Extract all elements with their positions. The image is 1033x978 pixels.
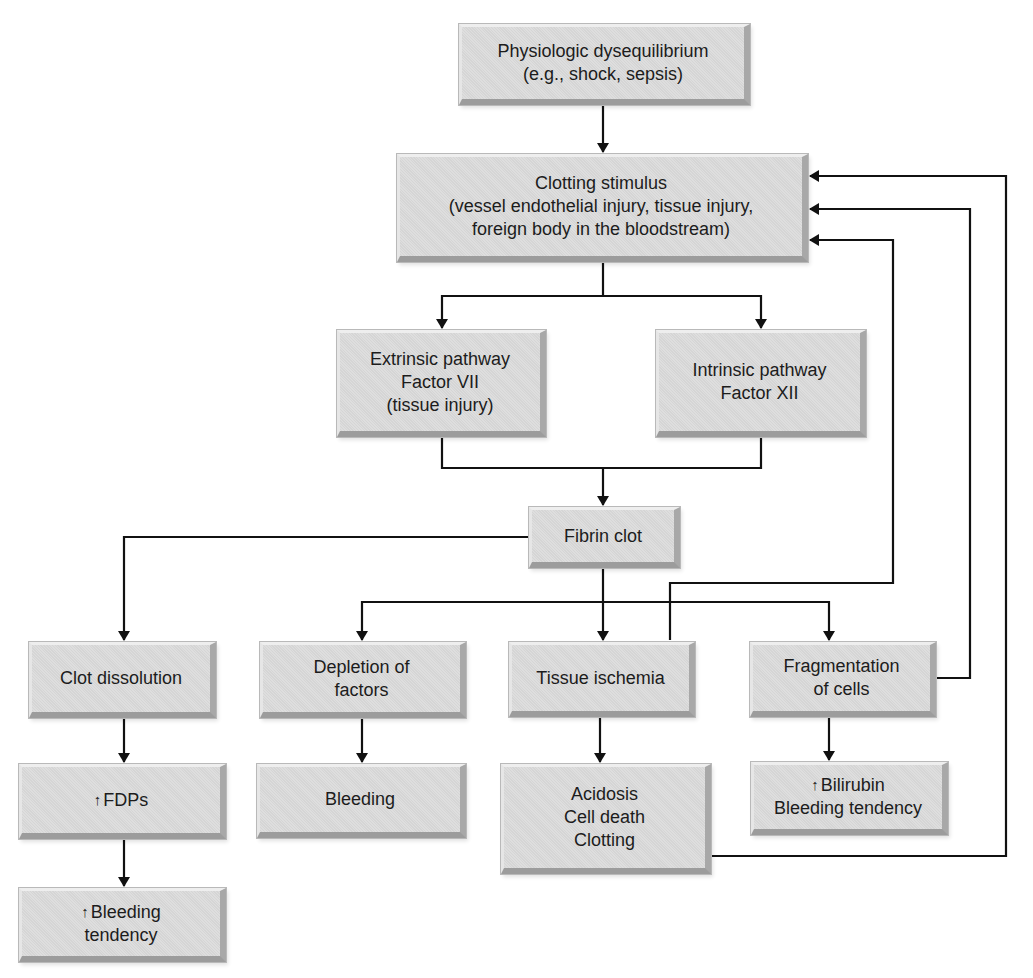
node-text-line: factors xyxy=(334,679,388,702)
node-intrinsic-pathway: Intrinsic pathway Factor XII xyxy=(656,330,866,437)
node-bleeding: Bleeding xyxy=(257,764,466,838)
node-text-line: Intrinsic pathway xyxy=(692,359,826,382)
node-bilirubin-bleeding-tendency: ↑Bilirubin Bleeding tendency xyxy=(751,762,948,835)
feedback-tissue-ischemia-to-clotting xyxy=(670,240,893,640)
node-text-line: foreign body in the bloodstream) xyxy=(472,218,730,241)
node-text-line: (vessel endothelial injury, tissue injur… xyxy=(449,195,753,218)
node-text-line: Tissue ischemia xyxy=(536,667,664,690)
node-fragmentation-of-cells: Fragmentation of cells xyxy=(750,642,936,717)
node-text-line: Clot dissolution xyxy=(60,667,182,690)
node-text-line: (e.g., shock, sepsis) xyxy=(523,63,683,86)
edge-fibrin-to-fragmentation xyxy=(603,602,829,640)
node-tissue-ischemia: Tissue ischemia xyxy=(509,642,695,717)
feedback-fragmentation-to-clotting xyxy=(810,209,970,678)
node-clot-dissolution: Clot dissolution xyxy=(29,642,216,718)
node-acidosis-cell-death-clotting: Acidosis Cell death Clotting xyxy=(501,764,711,874)
edge-extrinsic-join xyxy=(442,437,761,468)
node-text: Bilirubin xyxy=(821,775,885,795)
increase-arrow-icon: ↑ xyxy=(811,776,819,793)
node-increased-bleeding-tendency: ↑Bleeding tendency xyxy=(19,888,226,962)
node-text-line: Cell death xyxy=(564,806,645,829)
node-text-line: ↑FDPs xyxy=(94,789,149,812)
edge-clotting-to-intrinsic xyxy=(603,296,761,328)
node-clotting-stimulus: Clotting stimulus (vessel endothelial in… xyxy=(397,154,808,262)
feedback-acidosis-to-clotting xyxy=(700,176,1006,856)
node-text-line: Bleeding xyxy=(325,788,395,811)
node-text-line: Fragmentation xyxy=(783,655,899,678)
node-text-line: ↑Bilirubin xyxy=(811,774,885,797)
increase-arrow-icon: ↑ xyxy=(94,791,102,808)
node-text: Bleeding xyxy=(91,902,161,922)
node-text-line: of cells xyxy=(813,678,869,701)
increase-arrow-icon: ↑ xyxy=(81,903,89,920)
edge-fibrin-to-clot-dissolution xyxy=(124,537,529,640)
node-text-line: Clotting stimulus xyxy=(535,172,667,195)
node-text-line: tendency xyxy=(84,924,157,947)
node-text-line: Bleeding tendency xyxy=(774,797,922,820)
node-extrinsic-pathway: Extrinsic pathway Factor VII (tissue inj… xyxy=(337,330,546,437)
edge-clotting-to-extrinsic xyxy=(442,296,603,328)
node-text-line: Physiologic dysequilibrium xyxy=(497,40,708,63)
node-text-line: Factor VII xyxy=(401,371,479,394)
node-fdps: ↑FDPs xyxy=(19,764,226,839)
edge-fibrin-to-depletion xyxy=(362,602,603,640)
node-text-line: (tissue injury) xyxy=(386,394,493,417)
node-text-line: Clotting xyxy=(574,829,635,852)
node-text-line: Fibrin clot xyxy=(564,525,642,548)
node-physiologic-dysequilibrium: Physiologic dysequilibrium (e.g., shock,… xyxy=(459,24,750,105)
node-text-line: Extrinsic pathway xyxy=(370,348,510,371)
node-text: FDPs xyxy=(103,790,148,810)
node-text-line: ↑Bleeding xyxy=(81,901,161,924)
node-text-line: Acidosis xyxy=(571,783,638,806)
node-text-line: Factor XII xyxy=(720,382,798,405)
node-text-line: Depletion of xyxy=(313,656,409,679)
node-depletion-of-factors: Depletion of factors xyxy=(260,642,466,718)
node-fibrin-clot: Fibrin clot xyxy=(529,507,680,568)
